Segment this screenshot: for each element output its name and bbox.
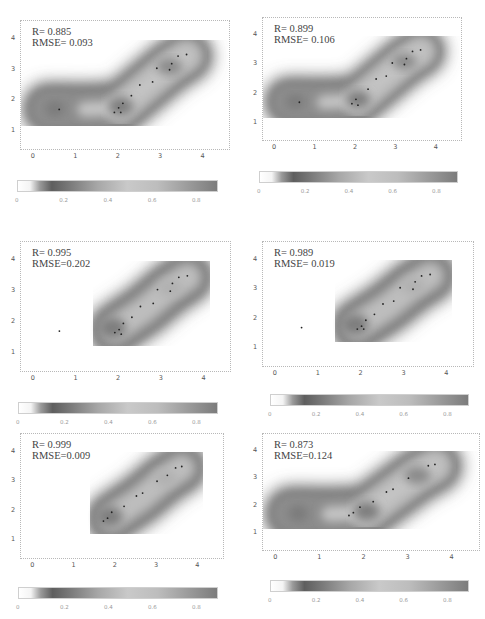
colorbar-tick-label: 0 [16, 419, 20, 425]
data-point [122, 102, 124, 104]
colorbar [17, 180, 218, 192]
y-axis-tick-label: 3 [253, 473, 257, 481]
data-point [298, 101, 300, 103]
data-point [152, 81, 154, 83]
colorbar-tick-label: 0.4 [356, 411, 365, 417]
y-axis-tick-label: 3 [11, 65, 15, 73]
data-point [361, 325, 363, 327]
x-axis-tick-label: 0 [273, 553, 277, 561]
colorbar-tick-label: 0 [268, 597, 272, 603]
data-point [392, 488, 394, 490]
data-point [375, 78, 377, 80]
data-point [142, 492, 144, 494]
x-axis-tick-label: 2 [116, 374, 120, 382]
x-axis-tick-label: 3 [159, 374, 163, 382]
colorbar-tick-label: 0.2 [301, 188, 310, 194]
data-point [429, 274, 431, 276]
colorbar-tick-label: 0.4 [345, 188, 354, 194]
x-axis-tick-label: 4 [444, 369, 448, 377]
data-point [427, 465, 429, 467]
data-point [178, 276, 180, 278]
y-axis-tick-label: 1 [253, 343, 257, 351]
data-point [352, 512, 354, 514]
data-point [118, 107, 120, 109]
data-point [355, 98, 357, 100]
x-axis-tick-label: 1 [72, 561, 76, 569]
y-axis-tick-label: 1 [11, 535, 15, 543]
data-point [356, 328, 358, 330]
data-point [372, 501, 374, 503]
data-point [359, 506, 361, 508]
colorbar-tick-label: 0.8 [192, 419, 201, 425]
data-point [412, 288, 414, 290]
data-point [408, 477, 410, 479]
data-point [382, 303, 384, 305]
data-point [374, 313, 376, 315]
data-point [107, 517, 109, 519]
data-point [186, 54, 188, 56]
colorbar-tick-label: 0.6 [148, 604, 157, 610]
x-axis-tick-label: 1 [313, 143, 317, 151]
data-point [177, 55, 179, 57]
x-axis-tick-label: 2 [361, 553, 365, 561]
data-point [169, 69, 171, 71]
colorbar-tick-label: 0.6 [399, 597, 408, 603]
y-axis-tick-label: 3 [11, 476, 15, 484]
colorbar-tick-label: 0.2 [59, 197, 68, 203]
data-point [156, 480, 158, 482]
data-point [385, 75, 387, 77]
colorbar-tick-label: 0.8 [192, 197, 201, 203]
x-axis-tick-label: 4 [201, 374, 205, 382]
x-axis-tick-label: 4 [450, 553, 454, 561]
colorbar [259, 171, 458, 183]
colorbar [270, 394, 469, 406]
x-axis-tick-label: 0 [273, 369, 277, 377]
rmse-value-label: RMSE= 0.093 [32, 37, 93, 49]
colorbar-tick-label: 0.6 [148, 419, 157, 425]
colorbar [18, 587, 218, 599]
data-point [391, 62, 393, 64]
y-axis-tick-label: 2 [11, 95, 15, 103]
data-point [171, 63, 173, 65]
x-axis-tick-label: 1 [73, 374, 77, 382]
colorbar-tick-label: 0.8 [432, 188, 441, 194]
data-point [118, 329, 120, 331]
colorbar-tick-label: 0 [257, 188, 261, 194]
y-axis-tick-label: 1 [253, 528, 257, 536]
data-point [421, 275, 423, 277]
data-point [120, 112, 122, 114]
x-axis-tick-label: 3 [405, 553, 409, 561]
data-point [103, 520, 105, 522]
x-axis-tick-label: 4 [201, 152, 205, 160]
y-axis-tick-label: 4 [11, 34, 15, 42]
data-point [169, 290, 171, 292]
data-point [122, 322, 124, 324]
x-axis-tick-label: 4 [195, 561, 199, 569]
y-axis-tick-label: 1 [11, 348, 15, 356]
y-axis-tick-label: 4 [11, 255, 15, 263]
data-point [386, 491, 388, 493]
x-axis-tick-label: 3 [393, 143, 397, 151]
data-point [301, 327, 303, 329]
y-axis-tick-label: 2 [253, 89, 257, 97]
colorbar-tick-label: 0 [268, 411, 272, 417]
colorbar-tick-label: 0.6 [148, 197, 157, 203]
colorbar-tick-label: 0.8 [443, 597, 452, 603]
data-point [111, 511, 113, 513]
y-axis-tick-label: 4 [253, 30, 257, 38]
data-point [113, 112, 115, 114]
data-point [136, 495, 138, 497]
x-axis-tick-label: 1 [73, 152, 77, 160]
colorbar-tick-label: 0.2 [60, 604, 69, 610]
colorbar [18, 402, 218, 414]
x-axis-tick-label: 2 [353, 143, 357, 151]
data-point [114, 332, 116, 334]
data-point [420, 49, 422, 51]
x-axis-tick-label: 2 [116, 152, 120, 160]
data-point [156, 67, 158, 69]
data-point [351, 103, 353, 105]
y-axis-tick-label: 4 [253, 255, 257, 263]
x-axis-tick-label: 1 [317, 553, 321, 561]
y-axis-tick-label: 1 [253, 118, 257, 126]
data-point [130, 95, 132, 97]
